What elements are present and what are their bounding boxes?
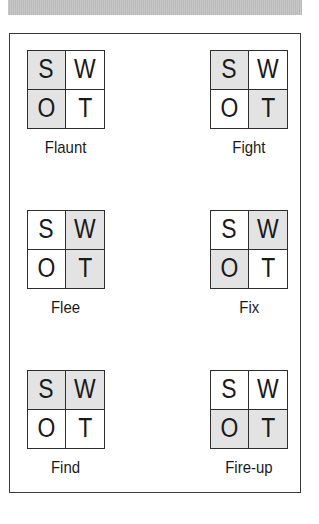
cell-opportunities: O [211, 90, 249, 129]
cell-strengths: S [211, 211, 249, 250]
swot-find: S W O T Find [27, 370, 105, 449]
cell-weaknesses: W [66, 211, 104, 250]
swot-grid: S W O T [210, 210, 288, 289]
swot-grid: S W O T [210, 50, 288, 129]
cell-threats: T [66, 90, 104, 129]
cell-strengths: S [211, 371, 249, 410]
cell-opportunities: O [28, 90, 66, 129]
strategy-label: Flee [7, 298, 125, 318]
cell-threats: T [66, 410, 104, 449]
strategy-label: Find [7, 458, 125, 478]
cell-opportunities: O [28, 410, 66, 449]
cell-weaknesses: W [249, 211, 287, 250]
swot-fire-up: S W O T Fire-up [210, 370, 288, 449]
cell-weaknesses: W [249, 51, 287, 90]
swot-grid: S W O T [27, 50, 105, 129]
strategy-label: Fire-up [190, 458, 308, 478]
cell-strengths: S [28, 211, 66, 250]
swot-fight: S W O T Fight [210, 50, 288, 129]
cell-weaknesses: W [66, 51, 104, 90]
cell-threats: T [249, 250, 287, 289]
swot-flaunt: S W O T Flaunt [27, 50, 105, 129]
cell-strengths: S [211, 51, 249, 90]
strategy-label: Flaunt [7, 138, 125, 158]
swot-flee: S W O T Flee [27, 210, 105, 289]
cell-threats: T [66, 250, 104, 289]
swot-grid: S W O T [27, 210, 105, 289]
cell-opportunities: O [211, 250, 249, 289]
cell-strengths: S [28, 371, 66, 410]
cell-threats: T [249, 410, 287, 449]
cell-weaknesses: W [249, 371, 287, 410]
swot-grid: S W O T [27, 370, 105, 449]
strategy-label: Fight [190, 138, 308, 158]
cell-threats: T [249, 90, 287, 129]
strategy-label: Fix [190, 298, 308, 318]
cell-opportunities: O [211, 410, 249, 449]
swot-fix: S W O T Fix [210, 210, 288, 289]
cell-strengths: S [28, 51, 66, 90]
header-bar [8, 0, 302, 15]
cell-opportunities: O [28, 250, 66, 289]
swot-grid: S W O T [210, 370, 288, 449]
cell-weaknesses: W [66, 371, 104, 410]
